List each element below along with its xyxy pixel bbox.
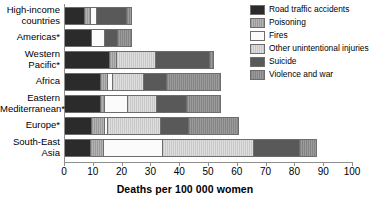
x-tick-label-60: 60 xyxy=(225,166,249,177)
bar-segment xyxy=(65,74,101,90)
stacked-bar xyxy=(64,29,132,47)
bar-segment xyxy=(97,8,127,24)
legend-item: Fires xyxy=(250,30,370,42)
bar-segment xyxy=(127,8,131,24)
bar-segment xyxy=(187,96,220,112)
bar-segment xyxy=(110,52,117,68)
bar-segment xyxy=(117,52,156,68)
category-label: Africa xyxy=(0,76,60,87)
category-label: High-income countries xyxy=(0,5,60,26)
bar-segment xyxy=(167,74,220,90)
category-label: Western Pacific* xyxy=(0,49,60,70)
category-label: Eastern Mediterranean* xyxy=(0,93,60,114)
legend-item: Poisoning xyxy=(250,17,370,29)
bar-segment xyxy=(144,74,167,90)
bar-segment xyxy=(65,118,92,134)
legend-item: Violence and war xyxy=(250,69,370,81)
bar-segment xyxy=(91,140,104,156)
x-axis-label: Deaths per 100 000 women xyxy=(0,183,370,195)
x-tick-label-20: 20 xyxy=(110,166,134,177)
legend-label: Violence and war xyxy=(269,70,333,79)
stacked-bar xyxy=(64,139,317,157)
bar-segment xyxy=(105,96,128,112)
legend-label: Suicide xyxy=(269,57,296,66)
bar-segment xyxy=(161,118,188,134)
legend-swatch-fires xyxy=(250,31,265,41)
bar-segment xyxy=(156,52,211,68)
chart-row xyxy=(64,136,352,158)
category-label: South-East Asia xyxy=(0,137,60,158)
chart-row xyxy=(64,92,352,114)
bar-segment xyxy=(189,118,238,134)
stacked-bar xyxy=(64,95,221,113)
legend-swatch-road-traffic-accidents xyxy=(250,5,265,15)
x-tick-label-10: 10 xyxy=(81,166,105,177)
x-tick-label-80: 80 xyxy=(282,166,306,177)
legend-item: Road traffic accidents xyxy=(250,4,370,16)
legend-item: Suicide xyxy=(250,56,370,68)
legend-swatch-suicide xyxy=(250,57,265,67)
bar-segment xyxy=(104,140,163,156)
stacked-bar-chart: 0102030405060708090100 Deaths per 100 00… xyxy=(0,0,370,201)
legend-swatch-other-unintentional-injuries xyxy=(250,44,265,54)
chart-row xyxy=(64,114,352,136)
bar-segment xyxy=(65,52,110,68)
x-tick-label-100: 100 xyxy=(340,166,364,177)
bar-segment xyxy=(210,52,213,68)
bar-segment xyxy=(65,30,92,46)
bar-segment xyxy=(65,140,91,156)
legend-label: Other unintentional injuries xyxy=(269,44,369,53)
bar-segment xyxy=(113,74,145,90)
bar-segment xyxy=(65,96,101,112)
bar-segment xyxy=(108,118,161,134)
x-tick-label-70: 70 xyxy=(254,166,278,177)
bar-segment xyxy=(118,30,131,46)
bar-segment xyxy=(157,96,187,112)
legend-label: Fires xyxy=(269,31,288,40)
bar-segment xyxy=(128,96,157,112)
x-tick-label-30: 30 xyxy=(138,166,162,177)
bar-segment xyxy=(105,30,118,46)
category-label: Europe* xyxy=(0,120,60,131)
bar-segment xyxy=(300,140,316,156)
bar-segment xyxy=(101,74,108,90)
stacked-bar xyxy=(64,51,214,69)
bar-segment xyxy=(92,118,105,134)
bar-segment xyxy=(163,140,254,156)
stacked-bar xyxy=(64,117,239,135)
stacked-bar xyxy=(64,7,132,25)
legend-swatch-violence-and-war xyxy=(250,70,265,80)
legend-label: Poisoning xyxy=(269,18,306,27)
legend-label: Road traffic accidents xyxy=(269,5,349,14)
x-tick-label-40: 40 xyxy=(167,166,191,177)
chart-legend: Road traffic accidentsPoisoningFiresOthe… xyxy=(250,4,370,82)
legend-swatch-poisoning xyxy=(250,18,265,28)
bar-segment xyxy=(254,140,300,156)
category-label: Americas* xyxy=(0,32,60,43)
bar-segment xyxy=(65,8,85,24)
legend-item: Other unintentional injuries xyxy=(250,43,370,55)
bar-segment xyxy=(92,30,105,46)
x-tick-label-0: 0 xyxy=(52,166,76,177)
stacked-bar xyxy=(64,73,221,91)
x-tick-label-90: 90 xyxy=(311,166,335,177)
x-tick-label-50: 50 xyxy=(196,166,220,177)
y-axis-line xyxy=(64,4,65,162)
